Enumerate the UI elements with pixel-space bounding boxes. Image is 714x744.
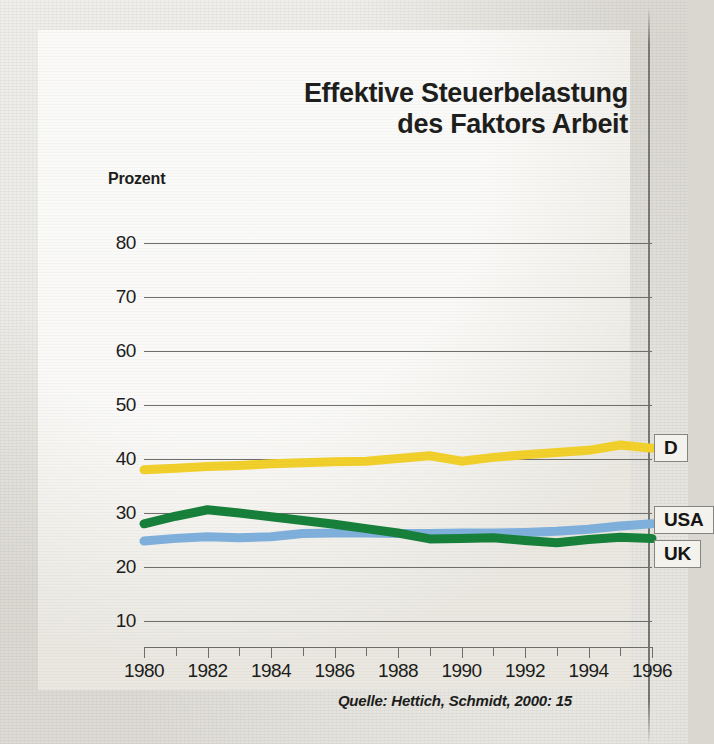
x-axis-tick-1985 [303,647,304,656]
chart-title: Effektive Steuerbelastung des Faktors Ar… [188,78,628,140]
x-axis-label-1980: 1980 [124,660,164,682]
x-axis-label-1990: 1990 [442,660,482,682]
x-axis-label-1996: 1996 [632,660,672,682]
x-axis-label-1984: 1984 [251,660,291,682]
x-axis-tick-1996 [652,647,653,658]
y-axis-tick-40: 40 [116,448,136,470]
legend-item-usa[interactable]: USA [654,506,714,534]
y-axis-tick-10: 10 [116,610,136,632]
legend-item-uk[interactable]: UK [654,540,701,568]
x-axis-tick-1993 [557,647,558,656]
x-axis-tick-1991 [493,647,494,656]
source-note: Quelle: Hettich, Schmidt, 2000: 15 [338,692,572,709]
x-axis-tick-1984 [271,647,272,658]
y-axis-tick-50: 50 [116,394,136,416]
y-axis-tick-20: 20 [116,556,136,578]
chart-title-line-1: Effektive Steuerbelastung [188,78,628,109]
x-axis-label-1982: 1982 [188,660,228,682]
x-axis-tick-1986 [335,647,336,658]
x-axis-label-1994: 1994 [569,660,609,682]
x-axis-tick-1987 [366,647,367,656]
x-axis-tick-1989 [430,647,431,656]
series-lines [144,216,652,648]
x-axis-tick-1980 [144,647,145,658]
y-axis-tick-80: 80 [116,232,136,254]
x-axis-tick-1992 [525,647,526,658]
x-axis-tick-1983 [239,647,240,656]
x-axis-tick-1994 [589,647,590,658]
x-axis-tick-1995 [620,647,621,656]
y-axis-tick-30: 30 [116,502,136,524]
series-line-d [144,445,652,470]
x-axis-tick-1982 [208,647,209,658]
x-axis-label-1992: 1992 [505,660,545,682]
x-axis-label-1986: 1986 [315,660,355,682]
chart-figure: Effektive Steuerbelastung des Faktors Ar… [38,30,630,690]
y-axis-unit-label: Prozent [108,170,165,188]
x-axis-label-1988: 1988 [378,660,418,682]
y-axis-tick-60: 60 [116,340,136,362]
y-axis-tick-70: 70 [116,286,136,308]
chart-title-line-2: des Faktors Arbeit [188,109,628,140]
x-axis-tick-1988 [398,647,399,658]
legend-item-d[interactable]: D [654,434,688,462]
x-axis-tick-1981 [176,647,177,656]
x-axis-tick-1990 [462,647,463,658]
